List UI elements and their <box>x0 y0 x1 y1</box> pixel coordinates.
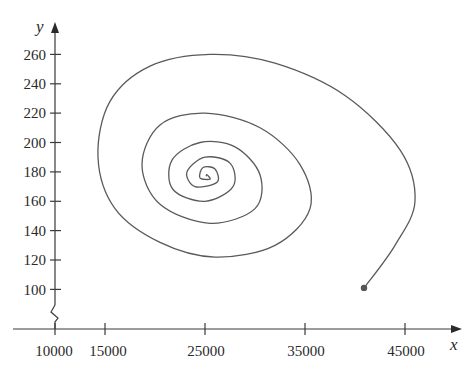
x-tick-label: 10000 <box>35 343 73 359</box>
x-tick-label: 45000 <box>387 343 425 359</box>
trajectory-curve <box>98 54 415 288</box>
x-tick-label: 35000 <box>287 343 325 359</box>
y-tick-label: 240 <box>24 76 47 92</box>
y-tick-label: 220 <box>24 105 47 121</box>
y-tick-label: 120 <box>24 252 47 268</box>
y-tick-label: 160 <box>24 193 47 209</box>
y-axis-label: y <box>34 17 44 36</box>
y-tick-labels: 260 240 220 200 180 160 140 120 100 <box>24 47 47 298</box>
x-tick-label: 25000 <box>187 343 225 359</box>
y-axis-arrow-icon <box>51 22 59 33</box>
y-tick-label: 140 <box>24 223 47 239</box>
x-axis-arrow-icon <box>451 325 462 333</box>
x-axis-label: x <box>449 335 458 354</box>
phase-plot: y 260 240 220 200 180 160 140 120 100 <box>0 0 471 376</box>
y-axis: y 260 240 220 200 180 160 140 120 100 <box>24 17 62 329</box>
y-tick-label: 260 <box>24 47 47 63</box>
y-tick-label: 180 <box>24 164 47 180</box>
y-tick-label: 100 <box>24 282 47 298</box>
x-axis: x 10000 15000 25000 35000 45000 <box>13 323 462 359</box>
x-tick-label: 15000 <box>89 343 127 359</box>
y-tick-label: 200 <box>24 135 47 151</box>
x-tick-labels: 10000 15000 25000 35000 45000 <box>35 343 425 359</box>
start-point-marker <box>361 285 367 291</box>
